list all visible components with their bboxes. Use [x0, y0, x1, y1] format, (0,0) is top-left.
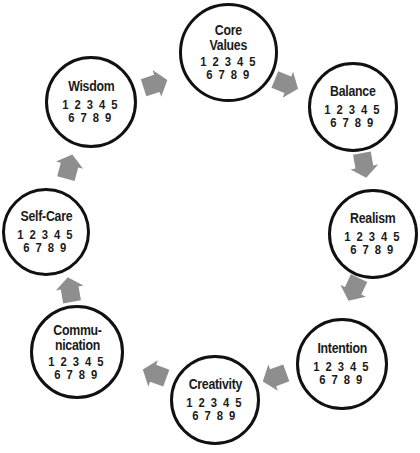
node-title: Self-Care	[20, 209, 72, 224]
rating-row-2: 6 7 8 9	[63, 112, 120, 125]
rating-row-2: 6 7 8 9	[314, 374, 371, 387]
node-wisdom: Wisdom 1 2 3 4 5 6 7 8 9	[45, 56, 137, 148]
node-title: Balance	[330, 84, 375, 99]
rating-scale: 1 2 3 4 5 6 7 8 9	[310, 361, 373, 387]
rating-row-2: 6 7 8 9	[325, 117, 382, 130]
node-title: Creativity	[188, 377, 242, 392]
node-title: Commu- nication	[53, 323, 101, 353]
node-self-care: Self-Care 1 2 3 4 5 6 7 8 9	[2, 188, 90, 276]
node-title: Core Values	[210, 23, 247, 53]
node-core-values: Core Values 1 2 3 4 5 6 7 8 9	[179, 3, 278, 102]
arrow-core-values-to-balance	[270, 67, 304, 102]
rating-row-2: 6 7 8 9	[49, 369, 106, 382]
rating-scale: 1 2 3 4 5 6 7 8 9	[45, 356, 108, 382]
node-communication: Commu- nication 1 2 3 4 5 6 7 8 9	[30, 305, 124, 399]
node-title: Intention	[317, 341, 367, 356]
rating-row-2: 6 7 8 9	[345, 244, 402, 257]
arrow-communication-to-self-care	[54, 275, 86, 304]
rating-scale: 1 2 3 4 5 6 7 8 9	[197, 56, 260, 82]
arrow-intention-to-creativity	[258, 360, 291, 395]
node-intention: Intention 1 2 3 4 5 6 7 8 9	[296, 318, 388, 410]
node-title: Realism	[350, 211, 395, 226]
rating-scale: 1 2 3 4 5 6 7 8 9	[14, 229, 77, 255]
node-creativity: Creativity 1 2 3 4 5 6 7 8 9	[170, 355, 260, 445]
arrow-self-care-to-wisdom	[52, 151, 86, 182]
rating-row-2: 6 7 8 9	[18, 242, 75, 255]
rating-scale: 1 2 3 4 5 6 7 8 9	[341, 231, 404, 257]
node-title: Wisdom	[68, 79, 114, 94]
node-realism: Realism 1 2 3 4 5 6 7 8 9	[328, 189, 418, 279]
node-balance: Balance 1 2 3 4 5 6 7 8 9	[308, 62, 398, 152]
arrow-balance-to-realism	[348, 151, 380, 180]
arrow-creativity-to-communication	[138, 356, 171, 391]
arrow-wisdom-to-core-values	[139, 67, 171, 101]
rating-row-2: 6 7 8 9	[200, 69, 257, 82]
rating-scale: 1 2 3 4 5 6 7 8 9	[59, 99, 122, 125]
rating-scale: 1 2 3 4 5 6 7 8 9	[183, 397, 246, 423]
rating-scale: 1 2 3 4 5 6 7 8 9	[321, 104, 384, 130]
rating-row-2: 6 7 8 9	[187, 410, 244, 423]
